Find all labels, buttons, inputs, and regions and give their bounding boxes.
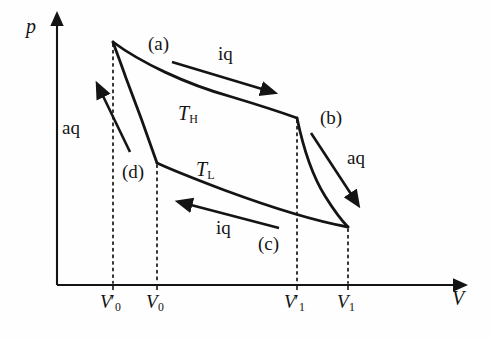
isotherm-label-TL: TL xyxy=(196,159,214,181)
isotherm-low-curve-c xyxy=(157,163,348,227)
isotherm-high-curve-a xyxy=(113,42,297,118)
adiabat-curve-d xyxy=(113,42,157,163)
tick-label-V1: V1 xyxy=(337,292,355,314)
process-label-d-aq: aq xyxy=(62,118,80,137)
process-label-c-iq: iq xyxy=(216,218,231,237)
tick-sub-V0prime: 0 xyxy=(115,301,121,314)
arrow-d-aq xyxy=(103,96,130,152)
process-label-b-aq: aq xyxy=(347,148,365,167)
isotherm-label-TH: TH xyxy=(178,103,198,125)
arrow-a-iq xyxy=(172,62,262,89)
isotherm-base-TL: T xyxy=(196,158,207,180)
tick-label-V1prime: V′1 xyxy=(284,292,305,314)
isotherm-sub-TH: H xyxy=(189,112,198,126)
step-label-a: (a) xyxy=(148,34,169,53)
isotherm-sub-TL: L xyxy=(207,168,214,182)
tick-base-V1: V xyxy=(337,291,349,312)
tick-sub-V1: 1 xyxy=(349,301,355,314)
tick-base-V0prime: V xyxy=(100,291,112,312)
tick-sub-V1prime: 1 xyxy=(299,301,305,314)
step-label-b: (b) xyxy=(320,108,342,127)
arrow-b-aq xyxy=(311,133,351,194)
isotherm-base-TH: T xyxy=(178,102,189,124)
tick-label-V0prime: V′0 xyxy=(100,292,121,314)
x-axis-label: V xyxy=(452,288,464,308)
step-label-d: (d) xyxy=(122,162,144,181)
process-label-a-iq: iq xyxy=(218,44,233,63)
adiabat-curve-b xyxy=(297,118,348,227)
axis-group xyxy=(57,24,455,285)
tick-base-V1prime: V xyxy=(284,291,296,312)
arrow-c-iq xyxy=(191,205,279,228)
tick-base-V0: V xyxy=(146,291,158,312)
y-axis-label: p xyxy=(26,16,36,36)
step-label-c: (c) xyxy=(258,234,279,253)
pv-diagram-canvas xyxy=(0,0,492,339)
tick-sub-V0: 0 xyxy=(158,301,164,314)
tick-label-V0: V0 xyxy=(146,292,164,314)
process-arrows xyxy=(103,62,351,228)
